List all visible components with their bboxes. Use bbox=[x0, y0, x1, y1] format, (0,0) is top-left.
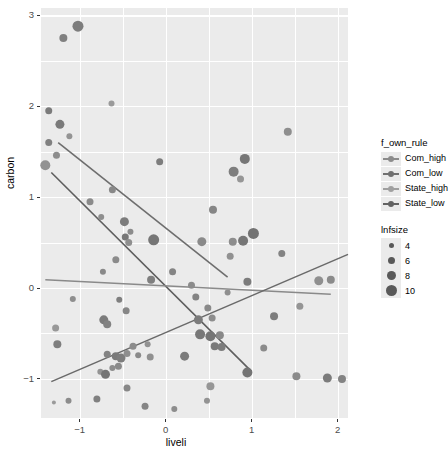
data-point bbox=[225, 290, 231, 296]
size-legend-item[interactable]: 6 bbox=[381, 253, 431, 268]
data-point bbox=[148, 234, 159, 245]
size-legend-item-label: 8 bbox=[405, 271, 410, 281]
data-point bbox=[66, 398, 72, 404]
y-axis-tick-mark bbox=[37, 106, 40, 107]
data-point bbox=[229, 238, 237, 246]
color-legend-item[interactable]: State_low bbox=[381, 197, 436, 211]
data-point bbox=[123, 385, 130, 392]
data-point bbox=[204, 305, 211, 312]
data-point bbox=[40, 160, 50, 170]
data-point bbox=[59, 34, 67, 42]
data-point bbox=[112, 256, 119, 263]
data-point bbox=[100, 269, 106, 275]
data-point bbox=[284, 128, 292, 136]
data-point bbox=[296, 303, 303, 310]
data-point bbox=[53, 340, 61, 348]
size-legend-item[interactable]: 10 bbox=[381, 283, 431, 298]
data-point bbox=[216, 331, 224, 339]
grid-line-vertical bbox=[381, 8, 382, 418]
y-axis-tick-mark bbox=[37, 288, 40, 289]
data-point bbox=[195, 329, 205, 339]
y-axis-tick-label: 1 bbox=[12, 191, 34, 202]
color-legend-item[interactable]: Com_high bbox=[381, 152, 436, 166]
color-legend-item-label: State_low bbox=[405, 198, 445, 208]
size-legend-item-label: 6 bbox=[405, 256, 410, 266]
size-legend-item[interactable]: 4 bbox=[381, 238, 431, 253]
data-point bbox=[45, 107, 52, 114]
data-point bbox=[171, 406, 177, 412]
x-axis-title: liveli bbox=[166, 436, 186, 448]
plot-panel bbox=[41, 8, 348, 418]
y-axis-tick-mark bbox=[37, 378, 40, 379]
data-point bbox=[66, 133, 72, 139]
data-point bbox=[116, 297, 122, 303]
x-axis-tick-mark bbox=[79, 419, 80, 422]
data-point bbox=[209, 315, 216, 322]
data-point bbox=[278, 250, 285, 257]
data-point bbox=[70, 296, 76, 302]
x-axis-tick-label: 2 bbox=[326, 424, 350, 435]
data-point bbox=[205, 331, 215, 341]
data-point bbox=[52, 401, 56, 405]
x-axis-tick-label: −1 bbox=[68, 424, 92, 435]
y-axis-tick-mark bbox=[37, 15, 40, 16]
data-point bbox=[260, 345, 267, 352]
data-point bbox=[52, 325, 59, 332]
data-point bbox=[192, 294, 199, 301]
data-point bbox=[238, 236, 248, 246]
data-point bbox=[145, 341, 151, 347]
data-point bbox=[45, 139, 52, 146]
data-point bbox=[206, 382, 214, 390]
data-point bbox=[240, 154, 250, 164]
data-point bbox=[243, 278, 251, 286]
data-point bbox=[109, 365, 115, 371]
data-point bbox=[194, 315, 203, 324]
size-legend-item[interactable]: 8 bbox=[381, 268, 431, 283]
data-point bbox=[125, 239, 132, 246]
data-point bbox=[142, 403, 149, 410]
data-point bbox=[314, 276, 323, 285]
x-axis-tick-label: 0 bbox=[154, 424, 178, 435]
size-legend-item-label: 10 bbox=[405, 286, 415, 296]
color-legend-item[interactable]: State_high bbox=[381, 182, 436, 196]
color-legend-item-label: Com_low bbox=[405, 168, 443, 178]
data-point bbox=[197, 237, 206, 246]
legend-key-point bbox=[388, 186, 394, 192]
data-point bbox=[87, 198, 94, 205]
x-axis-tick-mark bbox=[165, 419, 166, 422]
data-point bbox=[188, 282, 195, 289]
data-point bbox=[218, 343, 226, 351]
size-legend-item-label: 4 bbox=[405, 241, 410, 251]
data-point bbox=[109, 186, 116, 193]
data-point bbox=[127, 229, 133, 235]
data-point bbox=[242, 368, 252, 378]
data-point bbox=[55, 120, 64, 129]
y-axis-tick-label: −1 bbox=[12, 373, 34, 384]
data-point bbox=[211, 342, 219, 350]
x-axis-tick-mark bbox=[337, 419, 338, 422]
color-legend-title: f_own_rule bbox=[381, 137, 427, 148]
data-point bbox=[169, 268, 176, 275]
data-point bbox=[120, 217, 129, 226]
data-point bbox=[147, 276, 155, 284]
color-legend-item-label: State_high bbox=[405, 183, 448, 193]
data-point bbox=[109, 100, 115, 106]
legend-key-point bbox=[388, 156, 394, 162]
data-point bbox=[123, 350, 130, 357]
size-legend-key-point bbox=[386, 285, 397, 296]
data-point bbox=[93, 395, 100, 402]
data-point bbox=[72, 21, 83, 32]
color-legend-item[interactable]: Com_low bbox=[381, 167, 436, 181]
x-axis-tick-label: 1 bbox=[240, 424, 264, 435]
data-point bbox=[115, 363, 122, 370]
data-point bbox=[180, 352, 189, 361]
data-point bbox=[229, 167, 239, 177]
data-point bbox=[248, 228, 259, 239]
data-points-layer bbox=[41, 8, 348, 418]
data-point bbox=[101, 370, 110, 379]
grid-line-vertical bbox=[37, 8, 38, 418]
data-point bbox=[123, 307, 130, 314]
size-legend-key-point bbox=[388, 257, 395, 264]
size-legend-key-point bbox=[389, 243, 394, 248]
